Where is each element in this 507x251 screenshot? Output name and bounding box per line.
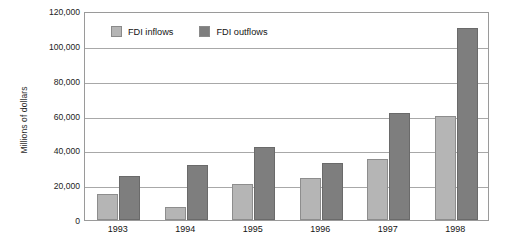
bar-group-1996 (300, 13, 343, 220)
fdi-bar-chart-figure: Millions of dollars 020,00040,00060,0008… (0, 0, 507, 251)
bar-group-1993 (97, 13, 140, 220)
y-tick-label: 100,000 (20, 42, 80, 52)
bar-inflows-1993[interactable] (97, 194, 118, 220)
x-tick-label-1997: 1997 (353, 224, 423, 234)
chart-legend: FDI inflows FDI outflows (111, 26, 268, 37)
y-tick-label: 60,000 (20, 112, 80, 122)
gridline (85, 187, 488, 188)
y-tick-label: 0 (20, 216, 80, 226)
x-tick-label-1993: 1993 (83, 224, 153, 234)
gridline (85, 48, 488, 49)
plot-area: FDI inflows FDI outflows (84, 12, 489, 221)
bar-outflows-1993[interactable] (119, 176, 140, 220)
bar-group-1998 (435, 13, 478, 220)
bar-group-1997 (367, 13, 410, 220)
y-tick-label: 20,000 (20, 181, 80, 191)
legend-swatch-icon-outflows (199, 26, 210, 37)
bar-inflows-1998[interactable] (435, 116, 456, 221)
y-tick-label: 80,000 (20, 77, 80, 87)
x-tick-label-1995: 1995 (218, 224, 288, 234)
bar-outflows-1995[interactable] (254, 147, 275, 220)
legend-item-fdi-outflows[interactable]: FDI outflows (199, 26, 267, 37)
legend-item-fdi-inflows[interactable]: FDI inflows (111, 26, 173, 37)
bar-group-1995 (232, 13, 275, 220)
bar-inflows-1997[interactable] (367, 159, 388, 220)
x-tick-label-1998: 1998 (420, 224, 490, 234)
legend-label-inflows: FDI inflows (128, 27, 173, 37)
y-tick-label: 120,000 (20, 7, 80, 17)
gridline (85, 152, 488, 153)
x-axis-tick-labels: 199319941995199619971998 (84, 224, 489, 240)
bar-inflows-1994[interactable] (165, 207, 186, 220)
bar-outflows-1997[interactable] (389, 113, 410, 220)
legend-label-outflows: FDI outflows (216, 27, 267, 37)
x-tick-label-1996: 1996 (285, 224, 355, 234)
bar-inflows-1995[interactable] (232, 184, 253, 220)
legend-swatch-icon-inflows (111, 26, 122, 37)
bar-outflows-1996[interactable] (322, 163, 343, 220)
y-tick-label: 40,000 (20, 146, 80, 156)
x-tick-label-1994: 1994 (150, 224, 220, 234)
gridline (85, 83, 488, 84)
bar-inflows-1996[interactable] (300, 178, 321, 220)
bar-outflows-1994[interactable] (187, 165, 208, 220)
gridline (85, 118, 488, 119)
bar-group-1994 (165, 13, 208, 220)
y-axis-tick-labels: 020,00040,00060,00080,000100,000120,000 (18, 12, 80, 221)
bar-outflows-1998[interactable] (457, 28, 478, 220)
